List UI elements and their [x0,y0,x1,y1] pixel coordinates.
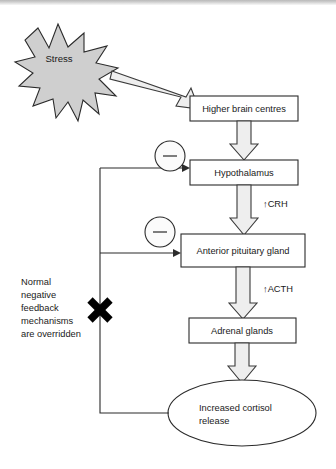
anterior-pituitary-gland-label: Anterior pituitary gland [196,246,289,256]
down-block-arrow-icon [230,121,258,160]
feedback-note: Normal negative feedback mechanisms are … [21,277,81,339]
arrow-higher-brain-to-hypothalamus [230,121,258,160]
node-increased-cortisol-release[interactable]: Increased cortisol release [168,380,316,446]
hypothalamus-label: Hypothalamus [214,168,274,178]
feedback-arrowhead-hypothalamus [182,164,190,172]
minus-sign-pituitary[interactable] [145,217,175,247]
node-anterior-pituitary-gland[interactable]: Anterior pituitary gland [181,234,305,267]
feedback-main-line [100,168,169,413]
increased-cortisol-release-ellipse [168,380,316,446]
arrow-hypothalamus-to-pituitary [230,185,258,235]
acth-label: ↑ACTH [263,284,293,294]
diagram-canvas: Stress Higher brain centres Hypothalamus… [0,0,336,469]
stress-burst-node[interactable]: Stress [15,24,118,121]
crh-label: ↑CRH [263,199,288,209]
feedback-note-line-3: feedback [21,303,59,313]
stress-label: Stress [45,53,72,64]
feedback-note-line-2: negative [21,290,56,300]
increased-cortisol-release-label-line2: release [199,416,230,426]
node-higher-brain-centres[interactable]: Higher brain centres [190,96,298,121]
down-block-arrow-icon [229,267,257,319]
arrow-pituitary-to-adrenal [229,267,257,319]
node-hypothalamus[interactable]: Hypothalamus [190,160,298,185]
hpa-axis-flowchart: Stress Higher brain centres Hypothalamus… [0,0,336,469]
minus-sign-hypothalamus[interactable] [155,141,185,171]
negative-feedback-loop [100,164,190,413]
adrenal-glands-label: Adrenal glands [211,326,273,336]
higher-brain-centres-label: Higher brain centres [202,104,286,114]
diagonal-block-arrow-icon [110,71,199,109]
node-adrenal-glands[interactable]: Adrenal glands [189,318,296,343]
feedback-note-line-1: Normal [21,277,51,287]
down-block-arrow-icon [230,185,258,235]
starburst-icon [15,24,118,121]
arrow-stress-to-higher-brain [110,71,199,109]
feedback-arrowhead-pituitary [173,249,181,257]
feedback-note-line-4: mechanisms [21,316,74,326]
feedback-note-line-5: are overridden [21,329,81,339]
increased-cortisol-release-label-line1: Increased cortisol [199,403,272,413]
arrow-adrenal-to-cortisol [228,343,256,383]
down-block-arrow-icon [228,343,256,383]
